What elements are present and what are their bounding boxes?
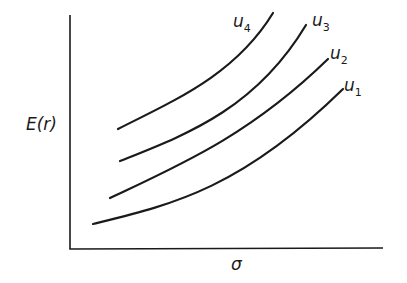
x-axis-label: σ [231, 254, 243, 274]
label-u4: u4 [233, 11, 251, 35]
y-axis-label: E(r) [26, 114, 57, 134]
label-u3: u3 [312, 10, 330, 34]
curve-u2 [110, 59, 328, 198]
label-u1: u1 [344, 75, 362, 99]
label-u2: u2 [330, 43, 348, 67]
curve-u3 [120, 25, 306, 161]
indifference-curve-diagram: u1 u2 u3 u4 E(r) σ [0, 0, 407, 283]
